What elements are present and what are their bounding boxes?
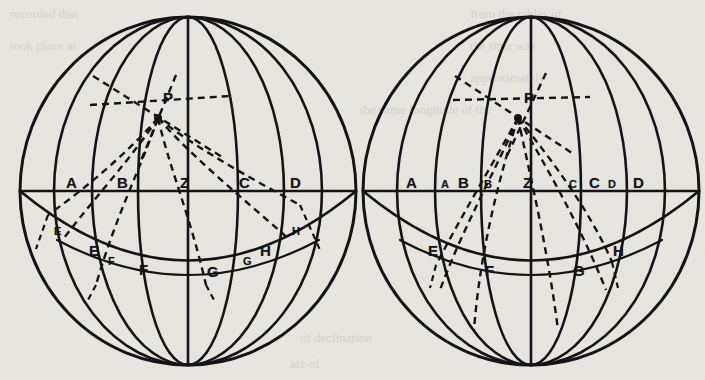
left-point-label-c: C bbox=[239, 175, 250, 190]
right-point-label-f: F bbox=[485, 263, 494, 278]
left-point-label-b: B bbox=[117, 175, 128, 190]
left-point-label-g: G bbox=[207, 264, 219, 279]
right-dashed-circles bbox=[430, 73, 618, 330]
right-point-label-h: H bbox=[613, 243, 624, 258]
right-point-label-b: B bbox=[458, 175, 469, 190]
right-sphere bbox=[363, 17, 699, 365]
left-point-label-g: G bbox=[243, 256, 252, 267]
left-point-label-z: Z bbox=[180, 175, 189, 190]
left-point-label-f: F bbox=[108, 256, 115, 267]
right-point-label-p: P bbox=[524, 90, 534, 105]
right-point-label-e: E bbox=[428, 243, 438, 258]
right-point-label-b: B bbox=[484, 179, 492, 190]
left-dashed-circles bbox=[36, 75, 320, 300]
left-point-label-h: H bbox=[292, 226, 300, 237]
left-point-label-h: H bbox=[260, 243, 271, 258]
right-point-label-g: G bbox=[573, 263, 585, 278]
left-point-label-e: E bbox=[89, 243, 99, 258]
right-point-label-c: C bbox=[569, 179, 577, 190]
left-point-P-node bbox=[154, 114, 162, 122]
left-sphere bbox=[20, 17, 356, 365]
left-point-label-d: D bbox=[290, 175, 301, 190]
right-point-label-c: C bbox=[589, 175, 600, 190]
right-point-label-z: Z bbox=[523, 175, 532, 190]
left-point-label-p: P bbox=[163, 90, 173, 105]
left-point-label-a: A bbox=[66, 175, 77, 190]
left-point-label-f: F bbox=[139, 262, 148, 277]
right-point-label-d: D bbox=[608, 179, 616, 190]
right-point-label-d: D bbox=[633, 175, 644, 190]
right-point-P-node bbox=[514, 114, 522, 122]
right-point-label-a: A bbox=[441, 179, 449, 190]
right-point-label-a: A bbox=[406, 175, 417, 190]
left-point-label-e: E bbox=[54, 226, 61, 237]
